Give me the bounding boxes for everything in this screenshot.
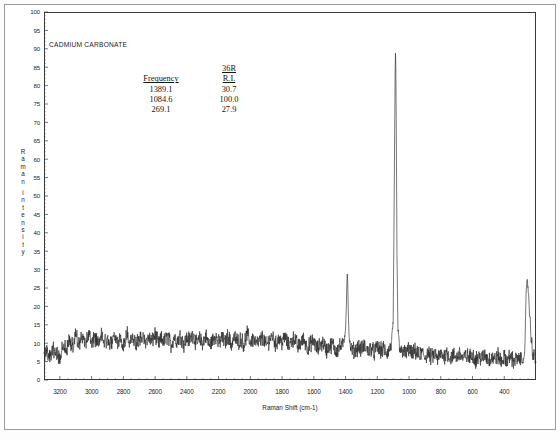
spectrum-trace bbox=[44, 53, 536, 368]
axis-ticks bbox=[44, 12, 528, 380]
spectrum-plot bbox=[0, 0, 560, 440]
spectrum-page: CADMIUM CARBONATE 36R Frequency R.I. 138… bbox=[0, 0, 560, 440]
